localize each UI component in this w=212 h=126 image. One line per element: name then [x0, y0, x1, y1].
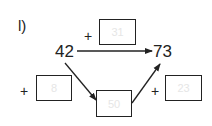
arrow-down-left [65, 63, 96, 100]
arrows-diagram [0, 0, 212, 126]
arrow-up-right [132, 64, 160, 103]
